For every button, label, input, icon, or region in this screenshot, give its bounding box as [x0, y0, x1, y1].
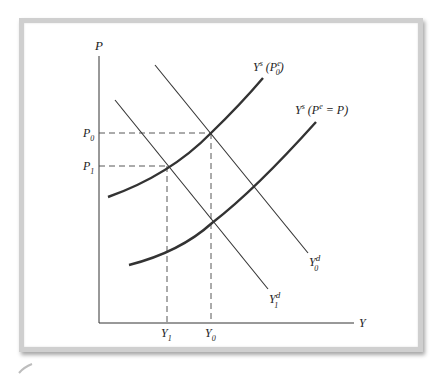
y1-label: Y1 [161, 326, 172, 343]
ys-pe-eq-p-supply-curve [129, 122, 316, 265]
y-axis-label: P [94, 38, 103, 53]
ys-pe-eq-p-label: Ys(Pe = P) [295, 102, 348, 117]
ys-p0e-supply-curve [108, 78, 263, 197]
ys-p0e-label: Ys(Pe0) [253, 59, 284, 77]
y0d-demand-line [155, 65, 308, 253]
ad-as-diagram: P Y Ys(Pe0) Ys(Pe = P) Yd0 Yd1 P0 P1 Y1 … [0, 0, 445, 378]
y0-label: Y0 [205, 326, 216, 343]
reference-lines [99, 133, 211, 323]
decorative-stroke-icon [19, 364, 32, 373]
y0d-label: Yd0 [309, 253, 321, 273]
p0-label: P0 [82, 126, 94, 143]
y1d-label: Yd1 [269, 290, 281, 310]
x-axis-label: Y [359, 316, 367, 330]
p1-label: P1 [82, 159, 94, 176]
